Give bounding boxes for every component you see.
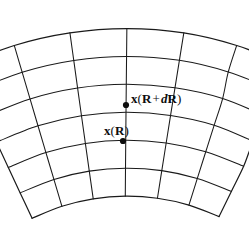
figure-container: x(R+dR) x(R): [0, 0, 249, 226]
mesh-boundary-arc: [0, 29, 249, 67]
label-base-R: R: [142, 91, 152, 106]
mesh-radial-line: [14, 45, 62, 206]
label-plus-operator: +: [152, 91, 161, 106]
label-vector-x: x: [104, 123, 111, 138]
outer-point-marker: [123, 102, 129, 108]
label-variable-R: R: [168, 91, 178, 106]
label-differential-d: d: [161, 91, 168, 106]
mesh-arc: [0, 56, 249, 91]
label-vector-x: x: [131, 91, 138, 106]
label-close-paren: ): [177, 91, 181, 106]
mesh-radial-line: [189, 45, 237, 205]
annular-sector-mesh: [0, 0, 249, 226]
inner-point-marker: [120, 138, 126, 144]
label-close-paren: ): [125, 123, 129, 138]
outer-point-label: x(R+dR): [131, 92, 182, 105]
label-base-R: R: [115, 123, 125, 138]
inner-point-label: x(R): [104, 124, 129, 137]
mesh-boundary-ray: [219, 66, 249, 216]
